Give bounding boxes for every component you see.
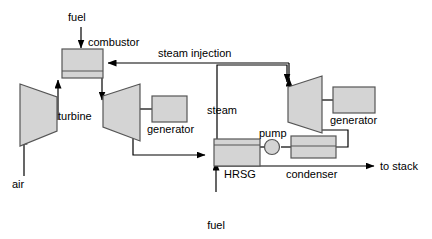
label-fuel-supplementary: fuel (supplementary firing) bbox=[161, 193, 271, 239]
steam-turbine-shape bbox=[288, 76, 322, 133]
label-generator-steam: generator bbox=[330, 114, 377, 127]
compressor-shape bbox=[20, 84, 57, 146]
generator-steam-shape bbox=[333, 87, 375, 113]
cogeneration-plant-diagram: fuel combustor steam injection turbine g… bbox=[0, 0, 432, 239]
pump-shape bbox=[265, 140, 280, 155]
label-combustor: combustor bbox=[88, 36, 139, 49]
label-hrsg: HRSG bbox=[224, 168, 256, 181]
label-air: air bbox=[12, 178, 24, 191]
components-shapes bbox=[20, 49, 375, 166]
label-to-stack: to stack bbox=[380, 160, 418, 173]
label-steam-injection: steam injection bbox=[158, 47, 231, 60]
label-fuel-supplementary-line1: fuel bbox=[161, 219, 271, 232]
combustor-shape bbox=[62, 49, 103, 78]
gas-turbine-shape bbox=[103, 84, 140, 141]
generator-gas-shape bbox=[152, 96, 187, 122]
label-generator-gas: generator bbox=[147, 123, 194, 136]
label-turbine: turbine bbox=[58, 110, 92, 123]
hrsg-shape bbox=[214, 139, 260, 166]
condenser-shape bbox=[291, 136, 336, 158]
label-condenser: condenser bbox=[286, 168, 337, 181]
label-fuel-combustor: fuel bbox=[68, 11, 86, 24]
label-pump: pump bbox=[259, 127, 287, 140]
label-steam: steam bbox=[207, 104, 237, 117]
